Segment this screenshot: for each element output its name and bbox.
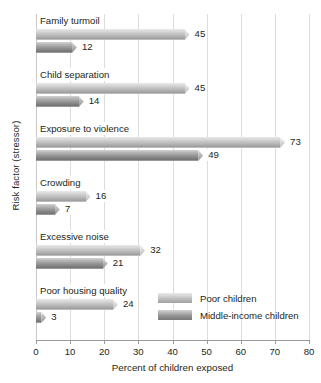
x-tick-label-50: 50 [201, 346, 212, 357]
category-label: Excessive noise [39, 230, 111, 243]
bar-value-label: 7 [63, 203, 72, 215]
bar-tip [79, 96, 84, 107]
bar-value-label: 3 [49, 311, 58, 323]
x-tick-20 [104, 340, 105, 344]
x-tick-30 [138, 340, 139, 344]
bar [36, 312, 46, 323]
category-label: Child separation [39, 68, 111, 81]
bar [36, 29, 190, 40]
bar-group: Excessive noise3221 [36, 230, 309, 284]
bar-value-label: 73 [288, 136, 303, 148]
bar-value-label: 16 [94, 190, 109, 202]
bar-group: Family turmoil4512 [36, 14, 309, 68]
bar-tip [41, 312, 46, 323]
x-tick-label-10: 10 [65, 346, 76, 357]
bar-value-label: 45 [193, 82, 208, 94]
bar-body [36, 42, 72, 53]
bar-value-label: 32 [148, 244, 163, 256]
category-label: Exposure to violence [39, 122, 131, 135]
bar-body [36, 29, 185, 40]
bar-tip [86, 191, 91, 202]
bar-tip [113, 299, 118, 310]
bar-body [36, 258, 103, 269]
x-tick-label-0: 0 [33, 346, 38, 357]
bar-body [36, 83, 185, 94]
bar-group: Child separation4514 [36, 68, 309, 122]
bar-tip [103, 258, 108, 269]
legend-item-poor-children: Poor children [158, 291, 299, 305]
bar-tip [280, 137, 285, 148]
x-tick-label-40: 40 [167, 346, 178, 357]
x-tick-label-30: 30 [133, 346, 144, 357]
bar-tip [185, 83, 190, 94]
bar [36, 96, 84, 107]
x-axis-title: Percent of children exposed [36, 362, 309, 373]
x-tick-80 [309, 340, 310, 344]
x-tick-40 [173, 340, 174, 344]
bar [36, 150, 203, 161]
bar [36, 83, 190, 94]
bar-chart: Risk factor (stressor) Family turmoil451… [0, 0, 321, 383]
x-axis-ticks: 01020304050607080 [36, 340, 309, 360]
bar-value-label: 21 [111, 257, 126, 269]
bar-tip [55, 204, 60, 215]
x-tick-label-20: 20 [99, 346, 110, 357]
bar-tip [185, 29, 190, 40]
legend-swatch-poor-children [158, 293, 192, 303]
legend-label-poor-children: Poor children [200, 293, 257, 304]
bar-tip [72, 42, 77, 53]
x-tick-label-80: 80 [304, 346, 315, 357]
bar-value-label: 14 [87, 95, 102, 107]
legend: Poor children Middle-income children [158, 291, 299, 325]
bar-body [36, 312, 41, 323]
bar-body [36, 245, 140, 256]
bar [36, 258, 108, 269]
bar-value-label: 12 [80, 41, 95, 53]
bar-group: Exposure to violence7349 [36, 122, 309, 176]
bar-tip [198, 150, 203, 161]
bar-value-label: 24 [121, 298, 136, 310]
legend-label-middle-income-children: Middle-income children [200, 310, 299, 321]
gridline-80 [309, 14, 310, 340]
x-tick-50 [207, 340, 208, 344]
legend-item-middle-income-children: Middle-income children [158, 308, 299, 322]
legend-swatch-middle-income-children [158, 310, 192, 320]
bar-tip [140, 245, 145, 256]
bar-body [36, 137, 280, 148]
category-label: Family turmoil [39, 14, 102, 27]
bar-value-label: 45 [193, 28, 208, 40]
x-tick-60 [241, 340, 242, 344]
x-tick-0 [36, 340, 37, 344]
bar-group: Crowding167 [36, 176, 309, 230]
x-tick-70 [275, 340, 276, 344]
bar [36, 204, 60, 215]
y-axis-title: Risk factor (stressor) [10, 91, 21, 241]
bar-value-label: 49 [206, 149, 221, 161]
bar-body [36, 204, 55, 215]
category-label: Crowding [39, 176, 83, 189]
bar-body [36, 96, 79, 107]
bar-body [36, 191, 86, 202]
x-tick-label-60: 60 [235, 346, 246, 357]
category-label: Poor housing quality [39, 284, 129, 297]
bar-body [36, 150, 198, 161]
bar [36, 137, 285, 148]
bar [36, 191, 91, 202]
bar [36, 299, 118, 310]
bar [36, 245, 145, 256]
x-tick-10 [70, 340, 71, 344]
x-tick-label-70: 70 [270, 346, 281, 357]
bar [36, 42, 77, 53]
bar-body [36, 299, 113, 310]
